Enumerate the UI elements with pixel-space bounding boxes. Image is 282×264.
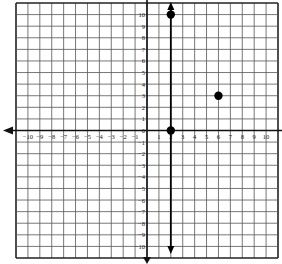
data-point <box>167 126 175 134</box>
data-point <box>167 10 175 18</box>
y-tick-label: 9 <box>142 23 145 30</box>
x-tick-label: 6 <box>217 133 221 140</box>
y-tick-label: −10 <box>135 243 145 250</box>
y-tick-label: 3 <box>142 92 145 99</box>
y-tick-label: −7 <box>138 208 146 215</box>
y-tick-label: −2 <box>138 150 145 157</box>
x-tick-label: −5 <box>84 133 91 140</box>
x-tick-label: 1 <box>157 133 160 140</box>
y-tick-label: 1 <box>142 115 145 122</box>
x-tick-label: −8 <box>48 133 55 140</box>
arrow-down-icon <box>167 246 174 254</box>
x-tick-label: 8 <box>241 133 244 140</box>
y-tick-label: −4 <box>138 173 146 180</box>
x-tick-label: −9 <box>36 133 43 140</box>
y-tick-label: 8 <box>142 34 145 41</box>
x-axis-arrow-left-icon <box>3 127 13 135</box>
y-tick-label: 5 <box>142 69 145 76</box>
x-tick-label: 10 <box>263 133 270 140</box>
y-tick-label: 2 <box>142 104 145 111</box>
y-tick-label: −9 <box>138 231 145 238</box>
x-tick-label: −2 <box>120 133 127 140</box>
y-axis-arrow-down-icon <box>143 257 151 264</box>
x-tick-label: 3 <box>181 133 184 140</box>
y-tick-label: 10 <box>139 11 146 18</box>
x-tick-label: 7 <box>229 133 233 140</box>
x-tick-label: −4 <box>96 133 104 140</box>
y-tick-label: −1 <box>138 139 145 146</box>
y-tick-label: 0 <box>142 127 145 134</box>
y-tick-label: −8 <box>138 220 145 227</box>
x-tick-label: −10 <box>23 133 33 140</box>
x-tick-label: 4 <box>193 133 197 140</box>
y-tick-label: −6 <box>138 197 146 204</box>
x-tick-label: −3 <box>108 133 115 140</box>
x-tick-label: 5 <box>205 133 208 140</box>
data-point <box>214 92 222 100</box>
y-tick-label: −5 <box>138 185 145 192</box>
x-tick-label: −6 <box>72 133 80 140</box>
x-tick-label: −7 <box>60 133 68 140</box>
y-tick-label: −3 <box>138 162 145 169</box>
x-tick-label: 9 <box>253 133 256 140</box>
coordinate-grid: −10−9−8−7−6−5−4−3−2−11234567891010987654… <box>0 0 282 264</box>
